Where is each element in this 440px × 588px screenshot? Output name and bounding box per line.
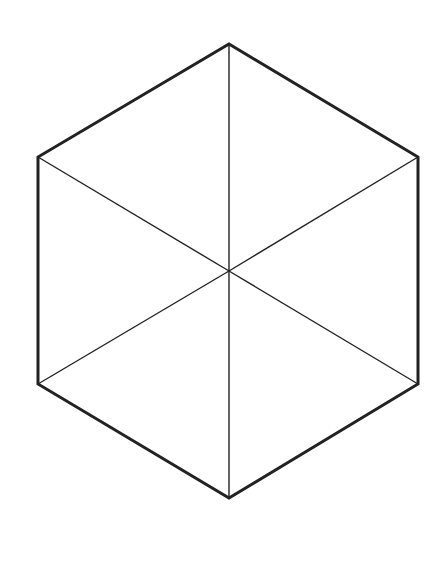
hexagon-diagram [0,0,440,588]
spoke-lower-left [38,271,229,384]
spoke-upper-left [38,157,229,271]
spoke-upper-right [229,157,418,271]
spoke-lower-right [229,271,418,384]
hexagon-spokes [38,44,418,498]
